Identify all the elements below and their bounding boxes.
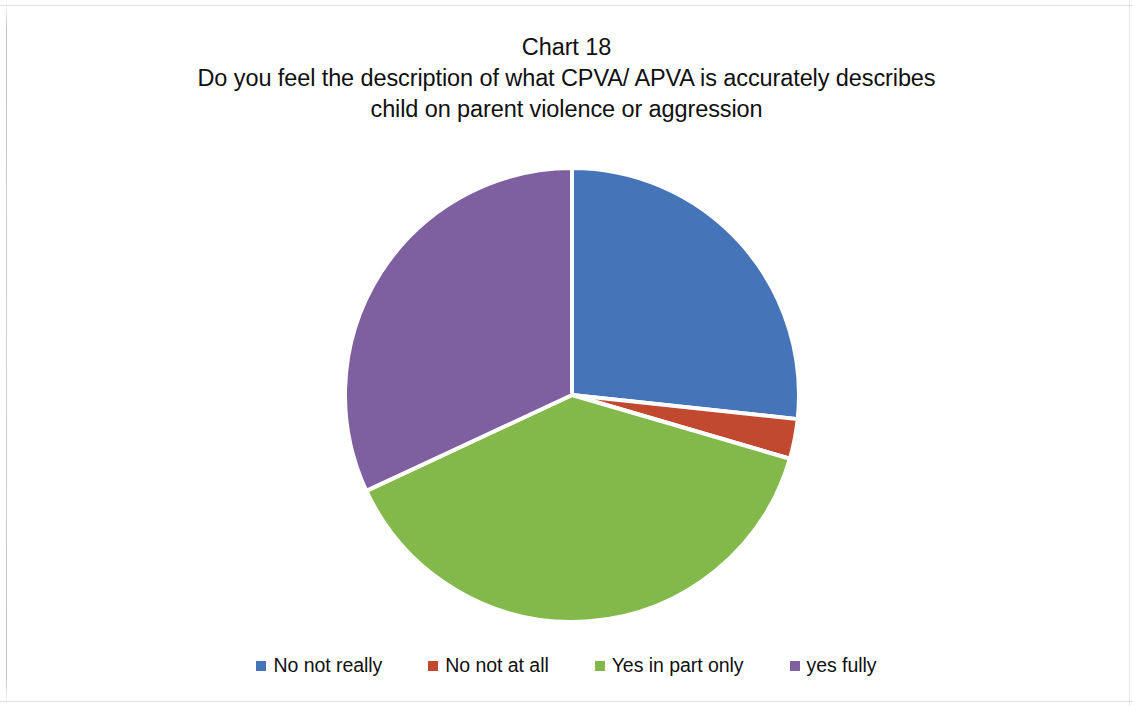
- pie-chart: No not really — 26.7%No not at all — 2.8…: [0, 150, 1133, 650]
- legend-swatch-icon: [790, 661, 800, 671]
- chart-title-line-3: child on parent violence or aggression: [0, 94, 1133, 125]
- legend-label: No not at all: [445, 654, 548, 677]
- legend-swatch-icon: [256, 661, 266, 671]
- legend-label: yes fully: [807, 654, 877, 677]
- plot-area: No not really — 26.7%No not at all — 2.8…: [0, 150, 1133, 650]
- legend-swatch-icon: [595, 661, 605, 671]
- chart-canvas: Chart 18 Do you feel the description of …: [0, 0, 1133, 706]
- scan-edge-top: [0, 5, 1133, 6]
- chart-title-line-1: Chart 18: [0, 32, 1133, 63]
- legend-item-3[interactable]: Yes in part only: [595, 654, 744, 677]
- legend-label: Yes in part only: [612, 654, 744, 677]
- legend-label: No not really: [273, 654, 382, 677]
- chart-title-line-2: Do you feel the description of what CPVA…: [0, 63, 1133, 94]
- scan-edge-bottom: [0, 701, 1133, 702]
- chart-title: Chart 18 Do you feel the description of …: [0, 32, 1133, 125]
- chart-legend: No not reallyNo not at allYes in part on…: [0, 654, 1133, 677]
- legend-item-1[interactable]: No not really: [256, 654, 382, 677]
- pie-slice-1[interactable]: No not really — 26.7%: [572, 168, 799, 419]
- legend-swatch-icon: [428, 661, 438, 671]
- legend-item-2[interactable]: No not at all: [428, 654, 548, 677]
- legend-item-4[interactable]: yes fully: [790, 654, 877, 677]
